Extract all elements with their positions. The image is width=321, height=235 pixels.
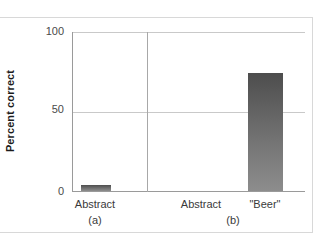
y-tick-50: 50	[30, 103, 64, 117]
x-tick-panel-b-beer: "Beer"	[234, 198, 296, 210]
gridline-100	[72, 32, 305, 33]
bar-chart-figure: Percent correct 100 50 0 Abstract Abstra…	[0, 0, 321, 235]
y-tick-0-label: 0	[30, 185, 64, 197]
bar-panel-a-abstract	[81, 185, 111, 191]
x-tick-panel-a-abstract: Abstract	[62, 198, 128, 210]
panel-tag-a: (a)	[62, 214, 128, 226]
y-tick-0: 0	[30, 185, 64, 199]
y-axis-label: Percent correct	[4, 56, 20, 166]
bar-panel-b-beer	[248, 73, 283, 191]
y-axis-line	[72, 32, 73, 192]
y-tick-50-label: 50	[30, 103, 64, 115]
x-axis-line	[72, 191, 305, 192]
plot-area	[72, 32, 305, 192]
x-tick-panel-b-abstract: Abstract	[168, 198, 234, 210]
y-tick-100-label: 100	[30, 25, 64, 37]
y-tick-100: 100	[30, 25, 64, 39]
panel-tag-b: (b)	[200, 214, 266, 226]
panel-divider-line	[147, 32, 148, 192]
